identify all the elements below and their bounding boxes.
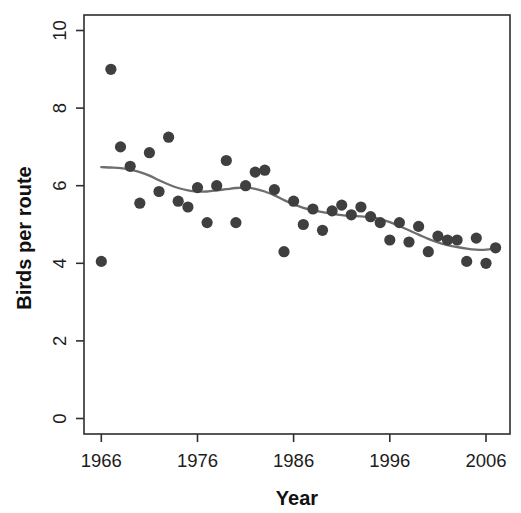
data-point: [153, 186, 164, 197]
y-tick-label: 6: [49, 181, 70, 191]
data-point: [221, 155, 232, 166]
data-point: [442, 234, 453, 245]
x-tick-label: 2006: [465, 450, 506, 471]
y-tick-label: 0: [49, 413, 70, 423]
data-point: [394, 217, 405, 228]
x-tick-label: 1996: [369, 450, 410, 471]
y-tick-label: 10: [49, 20, 70, 41]
data-point: [115, 141, 126, 152]
data-point: [173, 196, 184, 207]
y-tick-label: 8: [49, 103, 70, 113]
data-point: [192, 182, 203, 193]
x-tick-label: 1986: [273, 450, 314, 471]
data-point: [452, 234, 463, 245]
data-point: [471, 233, 482, 244]
data-point: [355, 201, 366, 212]
data-point: [250, 167, 261, 178]
y-tick-label: 4: [49, 258, 70, 268]
plot-canvas: 196619761986199620060246810: [0, 0, 521, 513]
data-point: [163, 132, 174, 143]
data-point: [230, 217, 241, 228]
data-point: [134, 198, 145, 209]
data-point: [269, 184, 280, 195]
data-point: [375, 217, 386, 228]
data-point: [240, 180, 251, 191]
data-point: [288, 196, 299, 207]
x-axis-label: Year: [276, 487, 318, 510]
data-point: [125, 161, 136, 172]
data-point: [480, 258, 491, 269]
y-axis-label: Birds per route: [13, 166, 36, 309]
data-point: [413, 221, 424, 232]
data-point: [423, 246, 434, 257]
y-tick-label: 2: [49, 336, 70, 346]
data-point: [298, 219, 309, 230]
data-point: [211, 180, 222, 191]
data-point: [317, 225, 328, 236]
data-point: [259, 165, 270, 176]
data-point: [346, 209, 357, 220]
data-point: [202, 217, 213, 228]
x-tick-label: 1966: [81, 450, 122, 471]
data-point: [96, 256, 107, 267]
data-point: [105, 64, 116, 75]
scatterplot-figure: 196619761986199620060246810 Birds per ro…: [0, 0, 521, 513]
data-point: [144, 147, 155, 158]
data-point: [278, 246, 289, 257]
data-point: [327, 205, 338, 216]
x-tick-label: 1976: [177, 450, 218, 471]
data-point: [182, 201, 193, 212]
data-point: [461, 256, 472, 267]
data-point: [490, 242, 501, 253]
data-point: [336, 200, 347, 211]
data-point: [384, 234, 395, 245]
data-point: [307, 203, 318, 214]
plot-border: [84, 15, 510, 434]
data-point: [365, 211, 376, 222]
data-point: [403, 236, 414, 247]
data-point: [432, 231, 443, 242]
